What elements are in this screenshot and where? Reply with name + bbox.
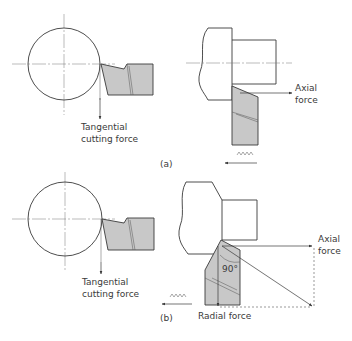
axial-label-2: force [295, 95, 318, 105]
tangential-label-2: cutting force [82, 289, 140, 299]
tangential-label-2: cutting force [81, 134, 139, 144]
break-line [179, 182, 188, 254]
break-line [199, 28, 208, 100]
cutting-tool-a-right [232, 86, 258, 145]
cutting-forces-diagram: Tangential cutting force Axial force (a)… [0, 0, 352, 341]
workpiece-body [208, 28, 232, 100]
axial-label-1: Axial [295, 83, 317, 93]
workpiece-body-chamfered [186, 182, 222, 254]
angle-label: 90° [222, 264, 238, 274]
caption-b: (b) [160, 313, 173, 323]
panel-b-side-view: 90° Axial force Radial force [162, 182, 341, 321]
axial-label-1: Axial [318, 234, 340, 244]
feed-zigzag-icon [237, 152, 253, 155]
workpiece-step [222, 200, 257, 240]
workpiece-step [232, 40, 276, 84]
cutting-tool-a-left [101, 64, 153, 95]
feed-zigzag-icon [170, 294, 186, 297]
caption-a: (a) [160, 159, 173, 169]
panel-a-end-view: Tangential cutting force [12, 14, 153, 144]
tangential-label-1: Tangential [80, 122, 127, 132]
tangential-label-1: Tangential [81, 277, 128, 287]
panel-a-side-view: Axial force (a) [160, 28, 318, 169]
radial-label: Radial force [198, 311, 252, 321]
cutting-tool-b-left [102, 218, 154, 250]
panel-b-end-view: Tangential cutting force (b) [12, 172, 173, 323]
axial-label-2: force [318, 246, 341, 256]
